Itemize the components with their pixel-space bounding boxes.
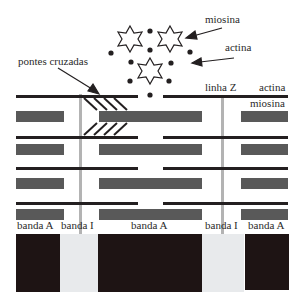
arrow-head-icon [186, 31, 197, 39]
arrow-head-icon [88, 84, 99, 94]
label-actin-cross-section: actina [225, 42, 251, 53]
z-line-left [79, 94, 82, 239]
band-i-block [60, 234, 98, 292]
label-actin: actina [259, 82, 285, 93]
star-icon [158, 26, 182, 52]
band-label: banda A [248, 220, 284, 231]
label-z-line: linha Z [205, 82, 236, 93]
band-a-block [245, 234, 289, 290]
sarcomere-diagram [0, 0, 298, 301]
band-label: banda A [17, 220, 53, 231]
band-label: banda I [205, 220, 238, 231]
myosin-cross-section-icons [118, 26, 182, 84]
band-label: banda I [61, 220, 94, 231]
band-i-block [202, 234, 244, 292]
band-blocks [16, 234, 289, 292]
star-icon [118, 26, 142, 52]
band-label: banda A [131, 220, 167, 231]
band-a-block [98, 234, 202, 292]
band-a-block [16, 234, 60, 292]
label-myosin: miosina [250, 98, 285, 109]
label-myosin-cross-section: miosina [205, 14, 240, 25]
star-icon [138, 58, 162, 84]
arrow-head-icon [192, 58, 202, 66]
label-cross-bridges: pontes cruzadas [18, 56, 88, 67]
